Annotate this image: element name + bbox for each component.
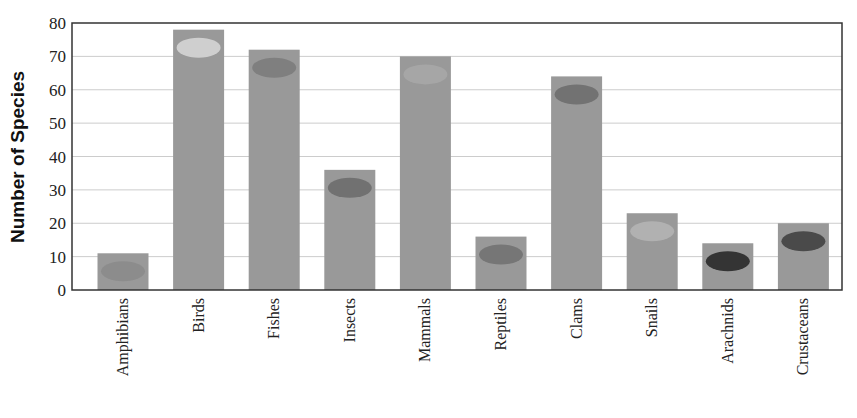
lobster-icon [781,231,825,251]
pigeon-icon [177,38,221,58]
fish-icon [252,58,296,78]
y-tick-label: 80 [49,14,66,33]
spider-icon [706,251,750,271]
x-tick-label: Birds [190,298,207,333]
clam-icon [555,84,599,104]
bar-chart: 01020304050607080 AmphibiansBirdsFishesI… [0,0,857,418]
x-tick-label: Arachnids [719,298,736,364]
x-tick-label: Snails [643,298,660,337]
y-tick-label: 20 [49,214,66,233]
bar-mammals [400,56,451,290]
y-tick-label: 10 [49,248,66,267]
x-tick-label: Crustaceans [794,298,811,375]
y-axis-label: Number of Species [7,71,28,243]
bar-fishes [249,50,300,290]
lizard-icon [479,245,523,265]
ladybug-icon [328,178,372,198]
x-tick-label: Insects [341,298,358,342]
x-tick-label: Fishes [265,298,282,339]
x-axis-labels: AmphibiansBirdsFishesInsectsMammalsRepti… [114,298,811,376]
x-tick-label: Clams [568,298,585,339]
y-tick-label: 70 [49,47,66,66]
y-tick-label: 60 [49,81,66,100]
x-tick-label: Reptiles [492,298,510,350]
y-tick-label: 0 [58,281,67,300]
horse-icon [403,64,447,84]
x-tick-label: Amphibians [114,298,132,376]
bar-birds [173,30,224,290]
snail-icon [630,221,674,241]
y-tick-label: 30 [49,181,66,200]
y-tick-label: 50 [49,114,66,133]
frog-icon [101,261,145,281]
y-axis-ticks: 01020304050607080 [49,14,66,300]
bar-clams [551,76,602,290]
y-tick-label: 40 [49,148,66,167]
bars [98,30,829,290]
x-tick-label: Mammals [416,298,433,362]
